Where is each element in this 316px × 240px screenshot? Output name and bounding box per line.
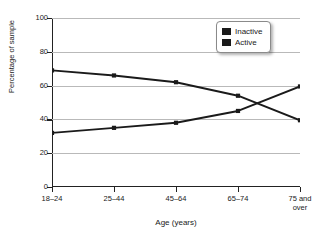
legend-item[interactable]: Active (222, 37, 263, 48)
y-tick-label: 0 (8, 183, 48, 191)
chart-legend: InactiveActive (216, 21, 271, 53)
x-axis-title: Age (years) (52, 218, 300, 227)
y-tick-label: 40 (8, 115, 48, 123)
x-tick-mark (238, 187, 239, 192)
x-tick-label: 18–24 (20, 194, 84, 203)
x-tick-mark (176, 187, 177, 192)
gridline (52, 153, 300, 154)
y-axis-title: Percentage of sample (7, 0, 16, 117)
legend-item-label: Inactive (235, 28, 263, 36)
x-tick-label: 25–44 (82, 194, 146, 203)
gridline (52, 119, 300, 120)
legend-swatch-icon (222, 39, 231, 46)
x-tick-label: 45–64 (144, 194, 208, 203)
x-tick-label: 65–74 (206, 194, 270, 203)
y-tick-label: 20 (8, 149, 48, 157)
x-tick-mark (52, 187, 53, 192)
x-tick-label: 75 and over (268, 194, 316, 212)
legend-swatch-icon (222, 28, 231, 35)
gridline (52, 86, 300, 87)
gridline (52, 18, 300, 19)
line-chart: 020406080100 18–2425–4445–6465–7475 and … (0, 0, 316, 240)
x-tick-mark (300, 187, 301, 192)
legend-item[interactable]: Inactive (222, 26, 263, 37)
legend-item-label: Active (235, 39, 257, 47)
x-tick-mark (114, 187, 115, 192)
